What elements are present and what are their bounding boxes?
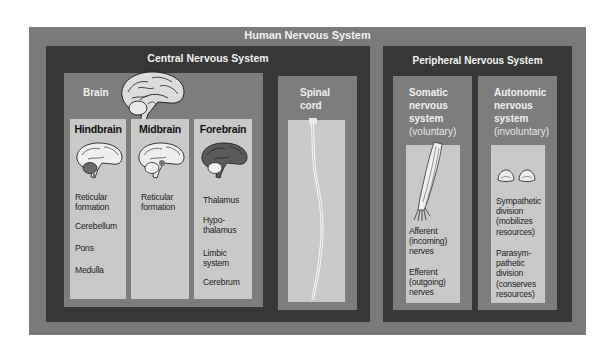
brain-midbrain-highlight-icon [136,141,186,179]
autonomic-label-line3: system [494,113,528,126]
somatic-label-line2: nervous [409,100,448,113]
autonomic-label-line2: nervous [494,100,533,113]
diagram-title: Human Nervous System [29,29,586,41]
brain-label: Brain [83,87,109,100]
hindbrain-item: Cerebellum [75,221,117,231]
spinal-cord-icon [288,118,345,302]
hindbrain-title: Hindbrain [70,123,126,135]
hindbrain-item: Reticular formation [75,192,125,212]
midbrain-title: Midbrain [131,123,189,135]
somatic-item-afferent: Afferent (incoming) nerves [409,226,459,257]
autonomic-label-line1: Autonomic [494,87,546,100]
spinal-cord-label-line1: Spinal [300,87,330,100]
somatic-qualifier: (voluntary) [409,126,456,137]
forebrain-item: Cerebrum [203,277,240,287]
forebrain-item: Thalamus [203,195,239,205]
hindbrain-item: Pons [75,243,94,253]
arm-nerves-icon [406,140,446,222]
pns-title: Peripheral Nervous System [383,55,572,66]
autonomic-item-parasympathetic: Parasym-pathetic division (conserves res… [496,248,544,299]
hindbrain-item: Medulla [75,265,104,275]
somatic-label-line1: Somatic [409,87,448,100]
adrenal-glands-icon [496,168,538,184]
forebrain-title: Forebrain [194,123,252,135]
brain-hindbrain-highlight-icon [74,141,124,179]
forebrain-item: Limbic system [203,248,243,268]
brain-sagittal-icon [118,70,186,125]
autonomic-item-sympathetic: Sympathetic division (mobilizes resource… [496,196,546,237]
forebrain-item: Hypo-thalamus [203,215,243,235]
somatic-label-line3: system [409,113,443,126]
midbrain-item: Reticular formation [141,192,186,212]
autonomic-qualifier: (involuntary) [494,126,549,137]
cns-title: Central Nervous System [46,52,370,64]
spinal-cord-label-line2: cord [300,100,322,113]
somatic-item-efferent: Efferent (outgoing) nerves [409,267,459,298]
brain-forebrain-highlight-icon [199,141,249,179]
